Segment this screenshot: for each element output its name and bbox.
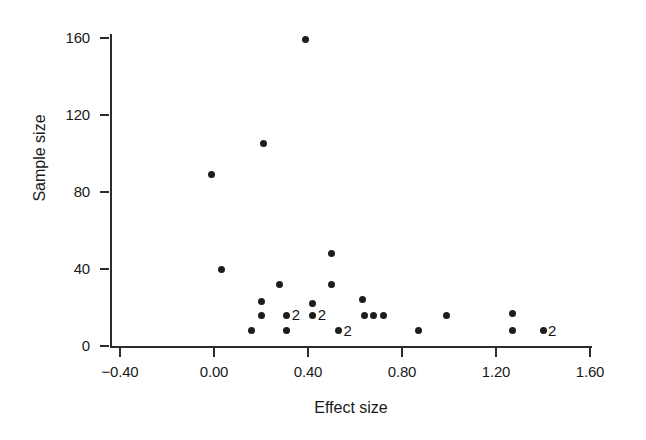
data-point (359, 296, 366, 303)
data-point (370, 312, 377, 319)
x-tick-mark (495, 348, 497, 357)
data-point (509, 327, 516, 334)
data-point-count-label: 2 (548, 323, 556, 338)
y-tick-label: 40 (48, 261, 90, 276)
x-tick-label: 0.80 (369, 364, 435, 379)
y-tick-mark (100, 37, 109, 39)
plot-area: 04080120160 −0.400.000.400.801.201.60 22… (0, 0, 646, 440)
x-tick-mark (213, 348, 215, 357)
x-tick-label: 0.40 (275, 364, 341, 379)
data-point (309, 312, 316, 319)
data-point (540, 327, 547, 334)
data-point (283, 312, 290, 319)
y-tick-mark (100, 114, 109, 116)
data-point (258, 312, 265, 319)
data-point (260, 140, 267, 147)
y-tick-label: 0 (48, 338, 90, 353)
data-point (328, 281, 335, 288)
x-tick-mark (307, 348, 309, 357)
data-point (328, 250, 335, 257)
x-tick-mark (401, 348, 403, 357)
y-tick-label: 80 (48, 184, 90, 199)
y-tick-label: 160 (48, 30, 90, 45)
data-point (380, 312, 387, 319)
data-point (258, 298, 265, 305)
data-point (335, 327, 342, 334)
x-tick-label: 1.60 (557, 364, 623, 379)
data-point (248, 327, 255, 334)
y-tick-mark (100, 191, 109, 193)
data-point (443, 312, 450, 319)
y-tick-mark (100, 268, 109, 270)
x-tick-mark (119, 348, 121, 357)
x-tick-label: −0.40 (87, 364, 153, 379)
data-point (509, 310, 516, 317)
x-tick-label: 1.20 (463, 364, 529, 379)
data-point (208, 171, 215, 178)
data-point (309, 300, 316, 307)
y-tick-mark (100, 345, 109, 347)
data-point (415, 327, 422, 334)
x-axis-title: Effect size (110, 400, 592, 416)
data-point (361, 312, 368, 319)
x-tick-label: 0.00 (181, 364, 247, 379)
data-point-count-label: 2 (344, 323, 352, 338)
y-axis-title: Sample size (32, 78, 48, 238)
y-tick-label: 120 (48, 107, 90, 122)
data-point (218, 266, 225, 273)
data-point-count-label: 2 (318, 307, 326, 322)
data-point-count-label: 2 (292, 307, 300, 322)
x-tick-mark (589, 348, 591, 357)
y-axis-line (110, 34, 112, 348)
x-axis-line (110, 346, 592, 348)
scatter-plot-figure: 04080120160 −0.400.000.400.801.201.60 22… (0, 0, 646, 440)
data-point (302, 36, 309, 43)
data-point (283, 327, 290, 334)
data-point (276, 281, 283, 288)
